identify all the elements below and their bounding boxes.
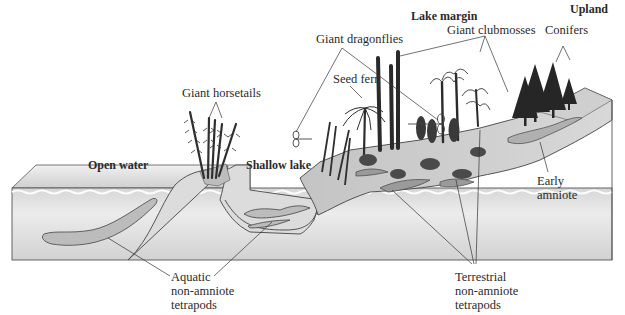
label-giant-horsetails: Giant horsetails	[182, 86, 261, 100]
zone-label-upland: Upland	[570, 2, 608, 16]
label-giant-clubmosses: Giant clubmosses	[447, 23, 536, 37]
label-conifers: Conifers	[545, 23, 588, 37]
zone-label-lake-margin: Lake margin	[411, 9, 477, 23]
label-seed-fern: Seed fern	[333, 72, 381, 86]
zone-label-shallow-lake: Shallow lake	[246, 158, 311, 172]
clubmoss-crowns	[430, 69, 490, 110]
label-early-amniote: Early amniote	[537, 174, 577, 202]
dragonfly-icon-2	[408, 114, 445, 134]
dragonfly-icon	[293, 131, 312, 147]
label-terrestrial-non-amniote-tetrapods: Terrestrial non-amniote tetrapods	[455, 270, 518, 312]
zone-label-open-water: Open water	[88, 158, 148, 172]
label-giant-dragonflies: Giant dragonflies	[316, 32, 403, 46]
label-aquatic-non-amniote-tetrapods: Aquatic non-amniote tetrapods	[171, 270, 234, 312]
paleo-ecosystem-diagram: Open water Shallow lake Lake margin Upla…	[0, 0, 625, 315]
